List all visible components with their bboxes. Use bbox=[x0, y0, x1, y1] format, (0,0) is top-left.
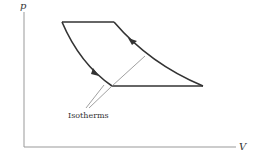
pv-diagram: p V Isotherms bbox=[0, 0, 263, 157]
isotherm-line bbox=[112, 56, 145, 86]
cycle bbox=[62, 22, 203, 86]
adiabat-left bbox=[62, 22, 112, 86]
v-axis-label: V bbox=[239, 141, 248, 152]
p-axis-label: p bbox=[20, 0, 27, 11]
adiabat-right bbox=[114, 22, 203, 86]
isotherms-label: Isotherms bbox=[68, 111, 109, 120]
